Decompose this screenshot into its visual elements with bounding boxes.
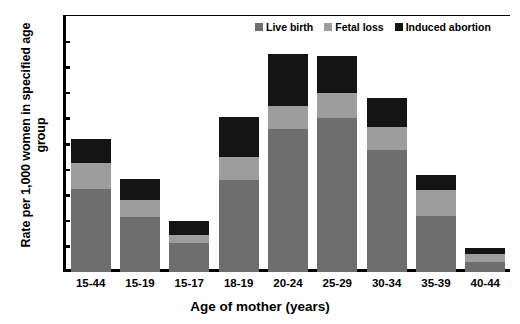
bar-segment[interactable] xyxy=(367,127,407,150)
bar-segment[interactable] xyxy=(367,98,407,127)
bar-segment[interactable] xyxy=(268,54,308,105)
bar-segment[interactable] xyxy=(465,254,505,262)
bar-segment[interactable] xyxy=(317,93,357,119)
bar-segment[interactable] xyxy=(416,175,456,190)
bar-group[interactable] xyxy=(465,16,505,272)
stacked-bar-chart: Rate per 1,000 women in specified age gr… xyxy=(0,0,520,324)
legend-item[interactable]: Fetal loss xyxy=(324,22,383,33)
bar-segment[interactable] xyxy=(219,117,259,157)
bar-group[interactable] xyxy=(367,16,407,272)
bars-layer xyxy=(66,16,510,272)
legend-label: Fetal loss xyxy=(335,22,383,33)
bar-segment[interactable] xyxy=(169,243,209,272)
x-axis-tick-labels: 15-4415-1915-1718-1920-2425-2930-3435-39… xyxy=(66,278,510,290)
legend-swatch-icon xyxy=(395,23,403,31)
x-axis-title: Age of mother (years) xyxy=(0,299,520,314)
bar-group[interactable] xyxy=(120,16,160,272)
bar-segment[interactable] xyxy=(268,106,308,129)
bar-group[interactable] xyxy=(71,16,111,272)
bar-segment[interactable] xyxy=(219,180,259,272)
bar-group[interactable] xyxy=(219,16,259,272)
x-tick-label: 15-44 xyxy=(67,278,115,290)
legend-label: Induced abortion xyxy=(406,22,491,33)
bar-segment[interactable] xyxy=(169,221,209,235)
bar-segment[interactable] xyxy=(317,118,357,272)
bar-segment[interactable] xyxy=(120,179,160,201)
bar-group[interactable] xyxy=(317,16,357,272)
x-tick-label: 15-19 xyxy=(116,278,164,290)
chart-legend: Live birthFetal lossInduced abortion xyxy=(255,22,491,33)
bar-group[interactable] xyxy=(169,16,209,272)
x-tick-label: 20-24 xyxy=(264,278,312,290)
bar-segment[interactable] xyxy=(120,217,160,272)
x-tick-label: 15-17 xyxy=(165,278,213,290)
x-tick-label: 35-39 xyxy=(412,278,460,290)
bar-segment[interactable] xyxy=(317,56,357,93)
bar-group[interactable] xyxy=(416,16,456,272)
bar-segment[interactable] xyxy=(465,262,505,272)
legend-item[interactable]: Induced abortion xyxy=(395,22,491,33)
bar-segment[interactable] xyxy=(120,200,160,217)
x-tick-label: 30-34 xyxy=(363,278,411,290)
legend-swatch-icon xyxy=(324,23,332,31)
y-axis-title: Rate per 1,000 women in specified age gr… xyxy=(19,5,49,265)
legend-item[interactable]: Live birth xyxy=(255,22,313,33)
x-tick-label: 40-44 xyxy=(461,278,509,290)
bar-segment[interactable] xyxy=(268,129,308,272)
bar-segment[interactable] xyxy=(367,150,407,272)
legend-label: Live birth xyxy=(266,22,313,33)
bar-segment[interactable] xyxy=(416,216,456,272)
x-tick-label: 18-19 xyxy=(215,278,263,290)
legend-swatch-icon xyxy=(255,23,263,31)
bar-segment[interactable] xyxy=(71,163,111,189)
bar-segment[interactable] xyxy=(416,190,456,216)
bar-segment[interactable] xyxy=(169,235,209,243)
bar-segment[interactable] xyxy=(71,139,111,163)
bar-segment[interactable] xyxy=(71,189,111,272)
bar-group[interactable] xyxy=(268,16,308,272)
x-tick-label: 25-29 xyxy=(313,278,361,290)
bar-segment[interactable] xyxy=(219,157,259,180)
